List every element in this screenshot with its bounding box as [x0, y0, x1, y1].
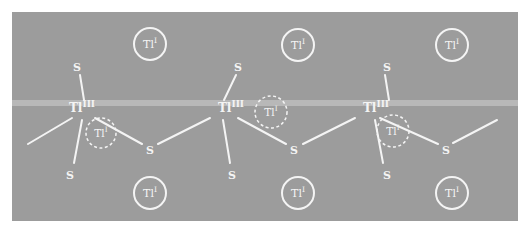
- sulfur-label: S: [66, 169, 74, 182]
- sulfur-label: S: [146, 144, 154, 157]
- sulfur-label: S: [228, 169, 236, 182]
- sulfur-label: S: [442, 144, 450, 157]
- sulfur-label: S: [383, 169, 391, 182]
- sulfur-label: S: [73, 61, 81, 74]
- sulfur-label: S: [234, 61, 242, 74]
- sulfur-label: S: [290, 144, 298, 157]
- tl-s-chain-diagram: TlITlITlITlITlITlI TlITlITlI TlIIITlIIIT…: [0, 0, 531, 231]
- sulfur-label: S: [383, 61, 391, 74]
- diagram-canvas: TlITlITlITlITlITlI TlITlITlI TlIIITlIIIT…: [0, 0, 531, 231]
